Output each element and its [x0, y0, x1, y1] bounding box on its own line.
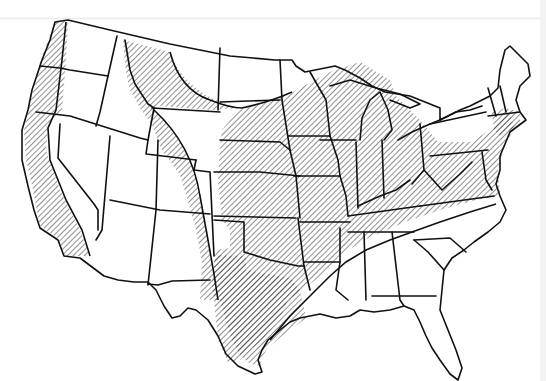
us-map [0, 0, 546, 381]
hatched-region-pacific [24, 20, 90, 256]
